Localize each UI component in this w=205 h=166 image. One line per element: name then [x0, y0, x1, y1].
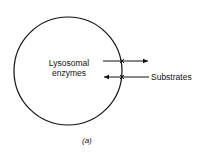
diagram-canvas	[0, 0, 205, 166]
figure-caption: (a)	[82, 136, 92, 146]
label-line-1: Lysosomal	[44, 58, 94, 68]
label-line-2: enzymes	[44, 68, 94, 78]
substrates-label: Substrates	[151, 72, 192, 82]
lysosomal-enzymes-label: Lysosomal enzymes	[44, 58, 94, 78]
